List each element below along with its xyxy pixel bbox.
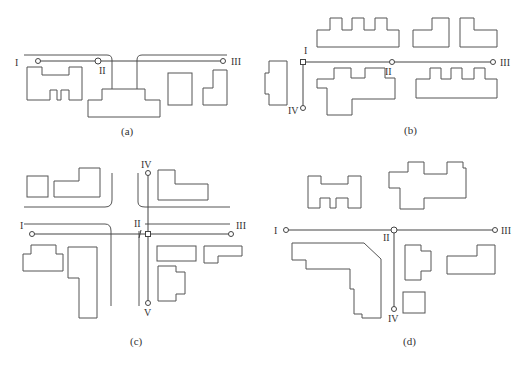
label-II: II [383,232,390,243]
pipeline-layout-figure: I II III (a) I II III IV (b) [0,0,527,365]
building-bent [292,243,381,318]
building-sw-1 [23,245,63,271]
panel-c: I II III IV V (c) [20,159,246,348]
label-I: I [20,220,23,231]
label-IV: IV [288,105,299,116]
panel-a: I II III (a) [15,55,241,138]
label-III: III [231,56,241,67]
building-sw-tall [68,247,97,318]
building-se-l [204,246,242,263]
caption-b: (b) [404,124,417,137]
building-bottom-comb [416,68,497,98]
label-III: III [236,220,246,231]
building-rect [168,73,192,105]
label-IV: IV [141,159,152,170]
caption-a: (a) [121,125,134,138]
building-top-l1 [413,18,449,47]
label-III: III [500,57,510,68]
node-III [493,228,498,233]
road-nw [24,173,112,207]
building-top-comb [317,18,399,47]
label-II: II [385,66,392,77]
building-stepped [88,89,160,117]
label-V: V [144,307,152,318]
building-nw-l [54,168,100,197]
node-II [390,60,395,65]
building-ne-l [158,170,208,200]
node-I [36,59,41,64]
building-l-shape [203,70,227,105]
panel-b: I II III IV (b) [265,18,510,137]
node-II [95,58,101,64]
building-top-l2 [460,18,497,47]
building-h-shape [27,67,82,100]
label-I: I [15,57,18,68]
node-II [391,227,397,233]
building-se-cross [158,266,185,301]
caption-d: (d) [403,335,416,348]
node-I [284,228,289,233]
panel-d: I II III IV (d) [274,162,511,348]
node-II [146,232,151,237]
node-III [221,59,226,64]
node-III [229,232,234,237]
node-IV [301,106,306,111]
label-II: II [134,218,141,229]
node-IV [146,171,151,176]
label-III: III [501,225,511,236]
label-I: I [274,225,277,236]
building-right-l [447,245,495,274]
building-square [403,292,425,313]
label-I: I [304,45,307,56]
node-I [30,232,35,237]
building-se-rect [157,246,196,261]
node-I [301,60,306,65]
building-left [265,61,287,105]
label-II: II [99,65,106,76]
building-cross [389,162,466,209]
road-ne [138,173,230,207]
building-bottom-cross [317,68,395,115]
building-nw-square [27,176,48,197]
building-mid [405,245,431,280]
node-III [491,60,496,65]
node-IV [392,307,397,312]
label-IV: IV [388,313,399,324]
node-V [146,301,151,306]
building-h-shape [308,176,361,208]
caption-c: (c) [130,335,143,348]
